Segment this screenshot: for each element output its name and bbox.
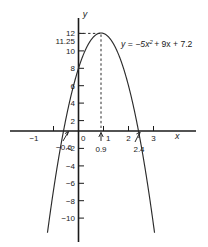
annotation-root-left-label: −0.6: [56, 143, 72, 152]
plot-canvas: y x 12 11.25 10 8 6 4 2 0 −2 −4 −6 −8 −1…: [0, 0, 208, 247]
x-tick-label-1: 1: [106, 134, 111, 143]
annotation-root-right-label: 2.4: [133, 145, 145, 154]
x-tick-label--1: −1: [29, 134, 39, 143]
x-tick-label-2: 2: [126, 134, 131, 143]
y-tick-label-8: 8: [71, 64, 76, 73]
equation-lhs: y: [120, 39, 126, 49]
equation-equals: =: [128, 39, 133, 49]
equation-exponent: 2: [148, 39, 153, 45]
x-axis-label: x: [174, 131, 180, 141]
y-tick-label-11-25: 11.25: [56, 37, 76, 46]
y-tick-label--6: −6: [66, 179, 76, 188]
y-tick-label-4: 4: [71, 99, 76, 108]
equation-rest: + 9x + 7.2: [154, 39, 192, 49]
parabola-graph-figure: y x 12 11.25 10 8 6 4 2 0 −2 −4 −6 −8 −1…: [0, 0, 208, 247]
y-tick-label--8: −8: [66, 197, 76, 206]
y-tick-label-6: 6: [71, 82, 76, 91]
y-tick-label-10: 10: [66, 47, 75, 56]
x-tick-label-3: 3: [151, 134, 156, 143]
y-tick-label--10: −10: [61, 214, 75, 223]
y-axis-label: y: [82, 9, 88, 19]
annotation-vertex-x-label: 0.9: [95, 145, 107, 154]
equation-term1: −5x: [135, 39, 150, 49]
equation-label: y=−5x2+ 9x + 7.2: [120, 39, 193, 49]
y-tick-label-0: 0: [81, 134, 86, 143]
y-tick-label-2: 2: [71, 117, 76, 126]
y-tick-label--4: −4: [66, 162, 76, 171]
